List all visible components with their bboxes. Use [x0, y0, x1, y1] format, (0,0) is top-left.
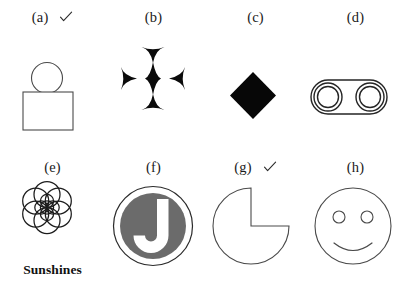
figure-e-sunshines-flower-logo [2, 180, 103, 298]
figure-a-circle-on-rectangle [2, 30, 103, 148]
sunshines-wordmark: Sunshines [2, 262, 103, 278]
figure-cell-e: (e) Su [2, 150, 103, 299]
caption-c: (c) [205, 8, 306, 26]
caption-f: (f) [103, 158, 204, 176]
figure-cell-d: (d) [305, 0, 406, 149]
caption-label-b: (b) [145, 8, 163, 26]
figure-c-solid-diamond [205, 30, 306, 148]
caption-label-h: (h) [347, 158, 365, 176]
figure-b-four-pointed-star-cluster [103, 30, 204, 148]
caption-a: (a) [2, 8, 103, 26]
caption-label-f: (f) [146, 158, 161, 176]
caption-label-c: (c) [247, 8, 264, 26]
figure-cell-g: (g) [205, 150, 306, 299]
caption-label-g: (g) [234, 158, 252, 176]
figure-sheet: (a) (b) [0, 0, 406, 299]
figure-d-stadium-with-two-rings [305, 30, 406, 148]
figure-cell-h: (h) [305, 150, 406, 299]
figure-cell-f: (f) [103, 150, 204, 299]
figure-f-j-monogram-badge [103, 180, 204, 298]
check-mark-icon [263, 161, 277, 173]
caption-d: (d) [305, 8, 406, 26]
caption-b: (b) [103, 8, 204, 26]
figure-cell-a: (a) [2, 0, 103, 149]
caption-label-d: (d) [347, 8, 365, 26]
caption-h: (h) [305, 158, 406, 176]
caption-label-a: (a) [32, 8, 49, 26]
figure-cell-c: (c) [205, 0, 306, 149]
figure-g-pac-man-circle [205, 180, 306, 298]
figure-cell-b: (b) [103, 0, 204, 149]
caption-e: (e) [2, 158, 103, 176]
figure-h-smiley-face [305, 180, 406, 298]
caption-g: (g) [205, 158, 306, 176]
check-mark-icon [59, 11, 73, 23]
caption-label-e: (e) [44, 158, 61, 176]
